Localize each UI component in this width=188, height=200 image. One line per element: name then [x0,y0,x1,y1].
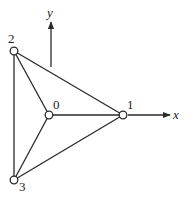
edge-3-1 [14,115,123,180]
node-circle [10,47,18,55]
x-axis: x [128,107,179,122]
x-axis-label: x [172,107,179,122]
y-axis: y [45,5,53,67]
edge-2-1 [14,51,123,115]
node-circle [119,111,127,119]
node-label: 1 [127,97,134,112]
node-2: 2 [8,31,18,55]
graph-nodes: 0123 [8,31,134,194]
graph-edges [14,51,123,180]
node-circle [45,111,53,119]
node-label: 3 [19,179,26,194]
y-axis-label: y [45,5,53,20]
node-label: 2 [8,31,15,46]
graph-diagram: y x 0123 [0,0,188,200]
node-circle [10,176,18,184]
node-label: 0 [53,97,60,112]
node-3: 3 [10,176,25,194]
